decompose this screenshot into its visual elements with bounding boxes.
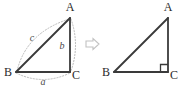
right-result-triangle: A B C <box>102 0 178 82</box>
left-vertex-label-c: C <box>72 68 80 82</box>
right-vertex-label-c: C <box>170 68 178 82</box>
transforms-to-arrow <box>86 39 99 50</box>
arc-side-b <box>71 19 76 71</box>
left-vertex-label-b: B <box>4 65 12 79</box>
side-label-a: a <box>41 76 46 87</box>
figure-canvas: A B C c b a A B C <box>0 0 191 88</box>
left-labeled-triangle: A B C c b a <box>4 0 80 87</box>
right-angle-mark-icon <box>161 65 169 73</box>
right-arrow-outline-icon <box>86 39 99 50</box>
geometry-figure: A B C c b a A B C <box>0 0 191 88</box>
side-label-b: b <box>60 40 65 51</box>
right-vertex-label-b: B <box>102 65 110 79</box>
side-label-c: c <box>30 32 35 43</box>
right-vertex-label-a: A <box>164 0 173 14</box>
left-vertex-label-a: A <box>66 0 75 14</box>
